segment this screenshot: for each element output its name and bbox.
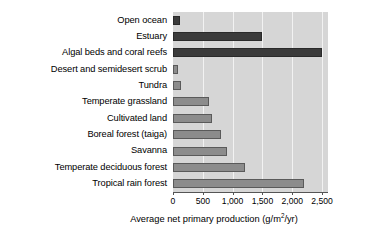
- category-label: Cultivated land: [0, 110, 170, 126]
- x-tick-label: 500: [196, 196, 210, 206]
- plot-area: [173, 12, 328, 192]
- category-label: Desert and semidesert scrub: [0, 61, 170, 77]
- x-axis-title: Average net primary production (g/m2/yr): [0, 214, 370, 224]
- bar: [173, 163, 245, 172]
- x-tick: [292, 192, 293, 195]
- axis-title-after: /yr): [284, 214, 297, 224]
- x-tick-label: 1,000: [222, 196, 244, 206]
- bar-row: [173, 28, 328, 44]
- category-label: Estuary: [0, 28, 170, 44]
- category-label: Savanna: [0, 143, 170, 159]
- x-tick-label: 2,500: [311, 196, 333, 206]
- bar: [173, 97, 209, 106]
- x-tick-label: 1,500: [252, 196, 274, 206]
- x-tick-label: 0: [171, 196, 176, 206]
- x-tick: [262, 192, 263, 195]
- category-labels: Open oceanEstuaryAlgal beds and coral re…: [0, 12, 170, 192]
- x-tick: [233, 192, 234, 195]
- category-label: Tropical rain forest: [0, 176, 170, 192]
- x-tick: [322, 192, 323, 195]
- bar: [173, 130, 221, 139]
- bar-row: [173, 143, 328, 159]
- category-label: Tundra: [0, 77, 170, 93]
- x-tick: [173, 192, 174, 195]
- bar-row: [173, 45, 328, 61]
- bar-row: [173, 12, 328, 28]
- bar-chart: Open oceanEstuaryAlgal beds and coral re…: [0, 0, 370, 235]
- bar: [173, 32, 262, 41]
- category-label: Algal beds and coral reefs: [0, 45, 170, 61]
- axis-title-before: Average net primary production (g/m: [130, 214, 281, 224]
- bars: [173, 12, 328, 192]
- bar: [173, 65, 178, 74]
- category-label: Temperate deciduous forest: [0, 159, 170, 175]
- bar: [173, 81, 181, 90]
- bar-row: [173, 110, 328, 126]
- bar: [173, 179, 304, 188]
- category-label: Boreal forest (taiga): [0, 127, 170, 143]
- bar: [173, 147, 227, 156]
- x-axis-line: [173, 192, 328, 193]
- bar-row: [173, 77, 328, 93]
- category-label: Temperate grassland: [0, 94, 170, 110]
- bar: [173, 114, 212, 123]
- bar: [173, 16, 180, 25]
- category-label: Open ocean: [0, 12, 170, 28]
- bar-row: [173, 176, 328, 192]
- x-tick-label: 2,000: [281, 196, 303, 206]
- bar-row: [173, 127, 328, 143]
- bar: [173, 48, 322, 57]
- bar-row: [173, 94, 328, 110]
- x-tick: [203, 192, 204, 195]
- bar-row: [173, 61, 328, 77]
- bar-row: [173, 159, 328, 175]
